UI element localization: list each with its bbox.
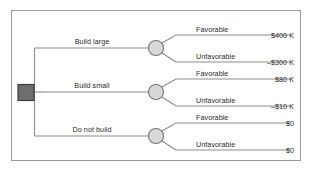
outcome-label-small-unfavorable: Unfavorable: [196, 96, 235, 105]
payoff-large-unfavorable: –$300 K: [267, 58, 294, 67]
branch-label-build-small: Build small: [74, 81, 109, 90]
branch-label-build-large: Build large: [75, 37, 110, 46]
payoff-small-favorable: $80 K: [275, 75, 294, 84]
payoff-large-favorable: $400 K: [271, 31, 294, 40]
outcome-label-none-favorable: Favorable: [196, 113, 228, 122]
outcome-label-large-favorable: Favorable: [196, 25, 228, 34]
decision-node-square[interactable]: [18, 85, 34, 101]
outcome-line-small-favorable: [162, 79, 290, 87]
chance-node-build-small[interactable]: [149, 85, 164, 100]
decision-tree-figure: Build large Build small Do not build Fav…: [0, 0, 313, 173]
chance-node-do-not-build[interactable]: [149, 129, 164, 144]
outcome-label-small-favorable: Favorable: [196, 69, 228, 78]
outcome-line-none-favorable: [162, 123, 290, 131]
payoff-small-unfavorable: –$10 K: [271, 102, 294, 111]
outcome-label-large-unfavorable: Unfavorable: [196, 52, 235, 61]
outcome-label-none-unfavorable: Unfavorable: [196, 140, 235, 149]
payoff-none-favorable: $0: [286, 119, 294, 128]
payoff-none-unfavorable: $0: [286, 146, 294, 155]
chance-node-build-large[interactable]: [149, 41, 164, 56]
branch-label-do-not-build: Do not build: [73, 125, 112, 134]
decision-tree-graphic: [0, 0, 313, 173]
